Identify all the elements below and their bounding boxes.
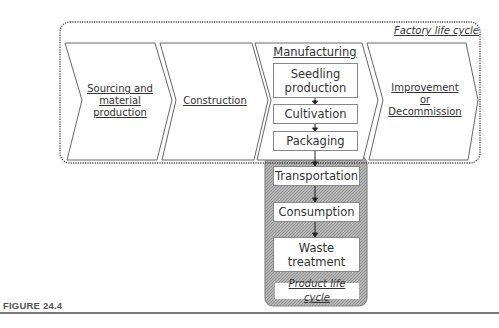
stage-manufacturing-label: Manufacturing: [270, 45, 360, 59]
step-waste-treatment: Waste treatment: [273, 237, 360, 272]
stage-construction-label: Construction: [180, 95, 250, 107]
stage-improvement-label: Improvement or Decommission: [385, 82, 465, 118]
caption-rule: [0, 312, 499, 314]
product-life-cycle-label: Product life cycle: [275, 283, 359, 299]
step-packaging: Packaging: [273, 131, 358, 151]
step-consumption: Consumption: [273, 202, 360, 222]
figure-caption: FIGURE 24.4: [3, 300, 62, 311]
diagram-shapes: [0, 0, 499, 328]
factory-life-cycle-label: Factory life cycle: [394, 25, 479, 36]
step-seedling-production: Seedling production: [273, 63, 358, 98]
step-cultivation: Cultivation: [273, 104, 358, 124]
product-life-cycle-text: Product life cycle: [275, 277, 359, 305]
stage-sourcing-label: Sourcing and material production: [85, 83, 155, 119]
step-transportation: Transportation: [273, 166, 360, 186]
